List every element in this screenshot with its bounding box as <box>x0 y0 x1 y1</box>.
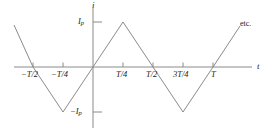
neg-ip-subscript: p <box>79 109 82 116</box>
x-tick-label-3t-over-4: 3T/4 <box>173 70 189 79</box>
plot-canvas <box>0 0 269 136</box>
x-axis-label: t <box>257 62 260 71</box>
x-tick-label-t-over-4: T/4 <box>116 70 127 79</box>
x-tick-label-t-over-2: T/2 <box>146 70 157 79</box>
y-tick-label-positive-ip: Ip <box>78 17 84 27</box>
x-tick-label-minus-t-over-2: −T/2 <box>21 70 38 79</box>
waveform-figure: i t Ip −Ip −T/2 −T/4 T/4 T/2 3T/4 T etc. <box>0 0 269 136</box>
etc-annotation: etc. <box>240 20 251 28</box>
x-tick-label-t: T <box>211 70 216 79</box>
ip-subscript: p <box>81 19 84 26</box>
x-tick-label-minus-t-over-4: −T/4 <box>51 70 68 79</box>
y-tick-label-negative-ip: −Ip <box>70 107 82 117</box>
y-axis-label: i <box>92 1 95 10</box>
neg-ip-main-text: −I <box>70 106 79 116</box>
